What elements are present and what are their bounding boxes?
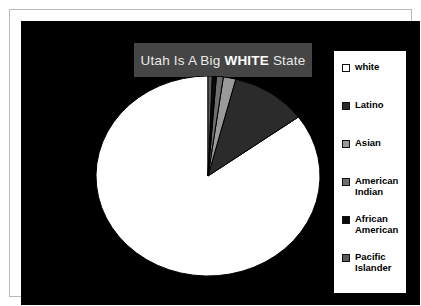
legend-item-pacific-islander[interactable]: Pacific Islander [342,251,405,289]
legend-item-african-american[interactable]: African American [342,213,405,251]
chart-root: Utah Is A Big WHITE State white Latino [0,0,421,306]
legend-item-asian[interactable]: Asian [342,137,405,175]
page-title: Utah Is A Big WHITE State [141,53,306,68]
legend-label: white [355,61,379,72]
legend-label: African American [355,213,405,235]
legend-swatch-icon [342,140,350,148]
pie-slices [96,76,320,276]
legend-swatch-icon [342,254,350,262]
legend-item-american-indian[interactable]: American Indian [342,175,405,213]
title-part-plain: Utah Is A Big [141,53,225,68]
pie-svg [95,76,321,292]
legend-label: Asian [355,137,381,148]
chart-legend: white Latino Asian American Indian Afric… [334,51,406,293]
legend-label: American Indian [355,175,405,197]
legend-item-latino[interactable]: Latino [342,99,405,137]
legend-label: Latino [355,99,384,110]
legend-swatch-icon [342,216,350,224]
legend-swatch-icon [342,178,350,186]
chart-frame: Utah Is A Big WHITE State white Latino [9,9,412,297]
legend-label: Pacific Islander [355,251,405,273]
legend-swatch-icon [342,64,350,72]
title-part-emphasis: WHITE [224,53,269,68]
legend-item-white[interactable]: white [342,61,405,99]
chart-plot-area: Utah Is A Big WHITE State white Latino [21,21,420,305]
title-part-tail: State [269,53,305,68]
pie-chart [95,76,321,292]
legend-swatch-icon [342,102,350,110]
chart-title-banner: Utah Is A Big WHITE State [134,43,312,77]
